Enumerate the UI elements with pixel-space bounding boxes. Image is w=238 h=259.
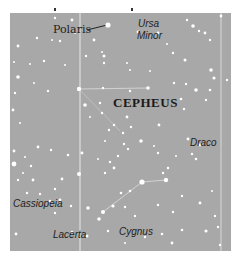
constellation-line xyxy=(142,180,166,182)
label-cassiopeia: Cassiopeia xyxy=(13,198,62,209)
constellation-line xyxy=(103,182,142,212)
cropped-caption-marks xyxy=(0,0,238,6)
label-draco: Draco xyxy=(190,137,217,148)
label-cygnus: Cygnus xyxy=(119,226,153,237)
star-chart: Polaris Ursa Minor CEPHEUS Draco Cassiop… xyxy=(10,13,231,251)
star-field xyxy=(10,13,231,251)
label-cepheus: CEPHEUS xyxy=(113,95,178,111)
label-lacerta: Lacerta xyxy=(53,229,86,240)
constellation-line xyxy=(79,88,148,89)
stars xyxy=(12,15,229,251)
label-polaris: Polaris xyxy=(53,23,91,36)
label-ursa-minor-line2: Minor xyxy=(137,30,162,41)
label-ursa-minor-line1: Ursa xyxy=(138,18,159,29)
